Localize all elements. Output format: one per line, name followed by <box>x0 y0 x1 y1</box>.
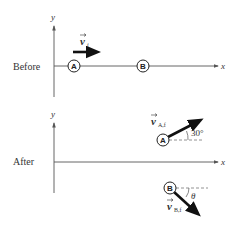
before-panel: Before y x A B v i <box>13 12 225 97</box>
angle-arc-a <box>187 131 189 140</box>
object-b-label: B <box>167 184 173 193</box>
velocity-b-final-label: v B,f <box>167 199 182 214</box>
collision-diagram: Before y x A B v i After y x 30° A v A,f <box>0 0 236 227</box>
velocity-a-final-label: v A,f <box>151 114 166 129</box>
after-label: After <box>13 156 35 167</box>
svg-text:A,f: A,f <box>158 122 166 128</box>
after-panel: After y x 30° A v A,f θ B v B,f <box>13 109 225 213</box>
svg-text:v: v <box>151 115 156 127</box>
velocity-initial-label: v i <box>80 34 89 49</box>
before-label: Before <box>13 61 41 72</box>
svg-text:v: v <box>167 200 172 212</box>
object-a-label: A <box>160 136 166 145</box>
x-axis-label: x <box>220 157 225 167</box>
svg-text:v: v <box>80 35 85 47</box>
y-axis-label: y <box>50 12 55 22</box>
angle-a-label: 30° <box>191 128 204 138</box>
x-axis-label: x <box>220 61 225 71</box>
angle-arc-b <box>186 188 189 197</box>
object-b-label: B <box>140 62 146 71</box>
angle-b-label: θ <box>191 191 196 201</box>
object-a-label: A <box>71 62 77 71</box>
svg-text:i: i <box>87 42 89 48</box>
y-axis-label: y <box>50 109 55 119</box>
svg-text:B,f: B,f <box>174 207 182 213</box>
